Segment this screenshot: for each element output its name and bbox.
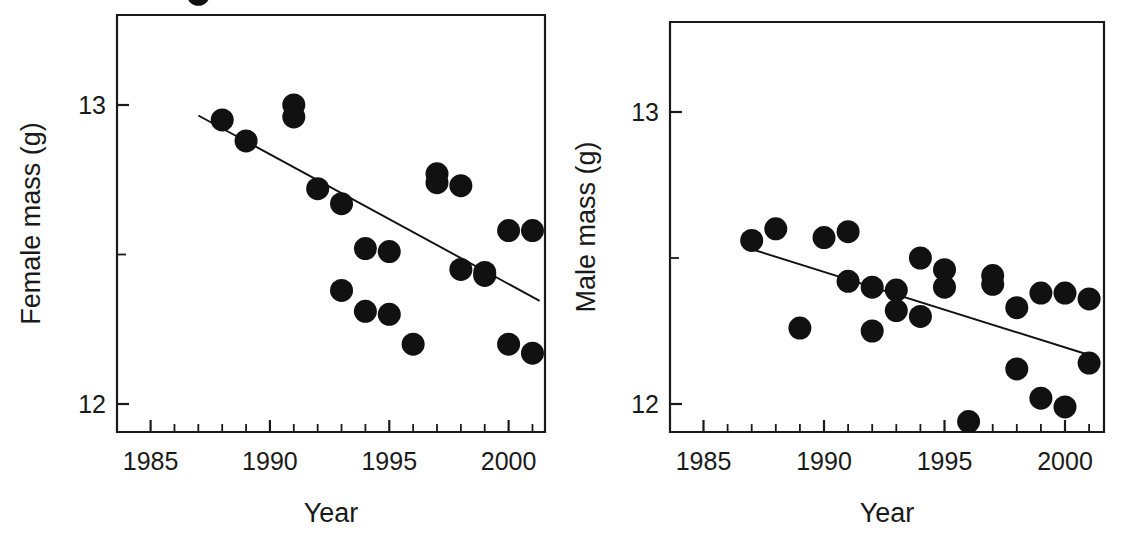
data-point	[354, 300, 377, 323]
xtick-label-2000: 2000	[1037, 447, 1093, 475]
xtick-label-1995: 1995	[917, 447, 973, 475]
data-point	[957, 410, 980, 433]
data-point	[330, 192, 353, 215]
y-axis-title: Male mass (g)	[571, 141, 601, 312]
data-point	[354, 237, 377, 260]
data-point	[885, 299, 908, 322]
data-point	[426, 171, 449, 194]
xtick-label-1995: 1995	[361, 447, 417, 475]
female-data-points	[187, 0, 544, 365]
data-point	[837, 220, 860, 243]
data-point	[306, 177, 329, 200]
data-point	[885, 279, 908, 302]
data-point	[521, 342, 544, 365]
male-plot-frame	[670, 22, 1104, 432]
female-y-axis-ticks	[117, 105, 129, 404]
ytick-label-13: 13	[78, 91, 106, 119]
data-point	[788, 317, 811, 340]
data-point	[861, 276, 884, 299]
xtick-label-2000: 2000	[481, 447, 537, 475]
data-point	[837, 270, 860, 293]
data-point	[813, 226, 836, 249]
data-point	[378, 303, 401, 326]
figure-container: 13 12 1985 1990 1995 2000 Year Female ma…	[0, 0, 1126, 540]
data-point	[1078, 352, 1101, 375]
data-point	[473, 261, 496, 284]
data-point	[1005, 296, 1028, 319]
ytick-label-12: 12	[78, 390, 106, 418]
data-point	[1078, 287, 1101, 310]
data-point	[1054, 282, 1077, 305]
x-axis-title: Year	[304, 498, 359, 528]
xtick-label-1990: 1990	[796, 447, 852, 475]
data-point	[378, 240, 401, 263]
panel-female-mass: 13 12 1985 1990 1995 2000 Year Female ma…	[0, 0, 563, 540]
xtick-label-1985: 1985	[676, 447, 732, 475]
xtick-label-1990: 1990	[242, 447, 298, 475]
data-point	[449, 174, 472, 197]
data-point	[909, 247, 932, 270]
data-point	[449, 258, 472, 281]
data-point	[497, 333, 520, 356]
data-point	[1029, 282, 1052, 305]
male-x-axis-ticks	[704, 420, 1090, 432]
data-point	[187, 0, 210, 6]
female-mass-scatter-plot: 13 12 1985 1990 1995 2000 Year Female ma…	[0, 0, 563, 540]
female-x-axis-ticks	[151, 420, 533, 432]
data-point	[933, 276, 956, 299]
panel-male-mass: 13 12 1985 1990 1995 2000 Year Male mass…	[563, 0, 1126, 540]
data-point	[1029, 387, 1052, 410]
data-point	[330, 279, 353, 302]
ytick-label-12: 12	[631, 390, 659, 418]
data-point	[1054, 395, 1077, 418]
male-mass-scatter-plot: 13 12 1985 1990 1995 2000 Year Male mass…	[563, 0, 1126, 540]
ytick-label-13: 13	[631, 98, 659, 126]
data-point	[861, 320, 884, 343]
data-point	[402, 333, 425, 356]
data-point	[211, 108, 234, 131]
data-point	[1005, 357, 1028, 380]
data-point	[235, 129, 258, 152]
data-point	[740, 229, 763, 252]
data-point	[764, 217, 787, 240]
data-point	[521, 219, 544, 242]
male-data-points	[740, 217, 1100, 433]
data-point	[497, 219, 520, 242]
data-point	[981, 273, 1004, 296]
y-axis-title: Female mass (g)	[16, 122, 46, 325]
male-y-axis-ticks	[670, 112, 682, 404]
data-point	[909, 305, 932, 328]
data-point	[282, 105, 305, 128]
female-plot-frame	[117, 15, 545, 432]
xtick-label-1985: 1985	[123, 447, 179, 475]
x-axis-title: Year	[860, 498, 915, 528]
